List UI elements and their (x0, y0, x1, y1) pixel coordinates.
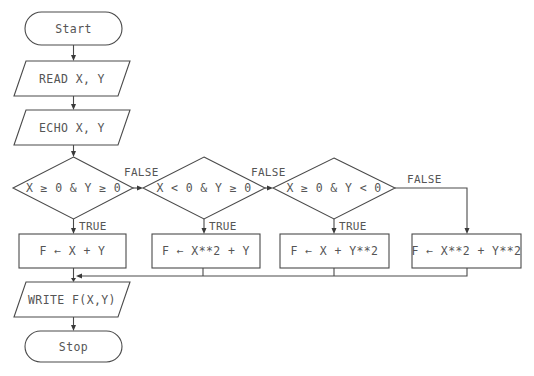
edge-read-echo (71, 96, 76, 110)
decision-3: X ≥ 0 & Y < 0 (273, 158, 395, 219)
true-label-1: TRUE (79, 220, 107, 233)
edge-cond1-true: TRUE (71, 219, 107, 234)
read-node: READ X, Y (14, 61, 130, 96)
stop-label: Stop (59, 340, 88, 354)
decision-2-label: X < 0 & Y ≥ 0 (156, 181, 251, 195)
flowchart: Start READ X, Y ECHO X, Y X ≥ 0 & Y ≥ 0 … (0, 0, 534, 376)
decision-1: X ≥ 0 & Y ≥ 0 (13, 157, 133, 219)
edge-cond2-true: TRUE (202, 219, 237, 234)
decision-2: X < 0 & Y ≥ 0 (143, 157, 265, 219)
false-label-2: FALSE (251, 166, 286, 179)
merge-connector (71, 268, 467, 282)
echo-node: ECHO X, Y (14, 110, 130, 145)
read-label: READ X, Y (39, 72, 105, 86)
edge-cond3-false: FALSE (395, 173, 470, 234)
process-1: F ← X + Y (19, 234, 126, 268)
false-label-1: FALSE (124, 166, 159, 179)
false-label-3: FALSE (407, 173, 442, 186)
start-node: Start (25, 12, 122, 45)
process-4: F ← X**2 + Y**2 (412, 234, 522, 268)
start-label: Start (55, 22, 92, 36)
true-label-3: TRUE (339, 220, 367, 233)
process-2: F ← X**2 + Y (152, 234, 260, 268)
decision-1-label: X ≥ 0 & Y ≥ 0 (26, 181, 121, 195)
write-node: WRITE F(X,Y) (14, 282, 130, 317)
process-1-label: F ← X + Y (40, 244, 106, 258)
edge-write-stop (71, 317, 76, 331)
edge-start-read (71, 45, 76, 61)
true-label-2: TRUE (209, 220, 237, 233)
decision-3-label: X ≥ 0 & Y < 0 (286, 181, 381, 195)
process-2-label: F ← X**2 + Y (162, 244, 250, 258)
process-3: F ← X + Y**2 (280, 234, 389, 268)
process-4-label: F ← X**2 + Y**2 (412, 244, 522, 258)
stop-node: Stop (25, 331, 122, 362)
edge-echo-cond1 (71, 145, 76, 157)
write-label: WRITE F(X,Y) (28, 293, 116, 307)
edge-cond3-true: TRUE (332, 219, 367, 234)
process-3-label: F ← X + Y**2 (291, 244, 379, 258)
echo-label: ECHO X, Y (39, 121, 105, 135)
